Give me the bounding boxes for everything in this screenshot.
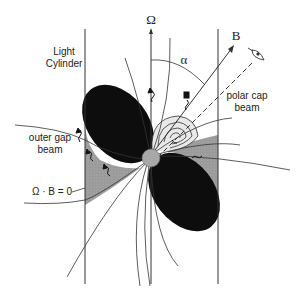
neutron-star [142, 149, 160, 167]
rotation-axis-arrowhead [149, 28, 153, 34]
magnetic-axis-label: B [226, 30, 246, 42]
alpha-label: α [176, 54, 192, 66]
outer-gap-label-line1: outer gap [25, 132, 75, 144]
polar-cap-label-line2: beam [222, 102, 272, 114]
omega-axis-label: Ω [141, 14, 161, 26]
light-cylinder-label-line1: Light [42, 46, 86, 58]
null-surface-pointer [72, 188, 85, 192]
null-surface-label: Ω · B = 0 [32, 186, 72, 198]
light-cylinder-label-line2: Cylinder [42, 58, 86, 70]
eye-icon [248, 48, 264, 60]
polar-cap-label-line1: polar cap [222, 90, 272, 102]
outer-gap-label-line2: beam [25, 144, 75, 156]
